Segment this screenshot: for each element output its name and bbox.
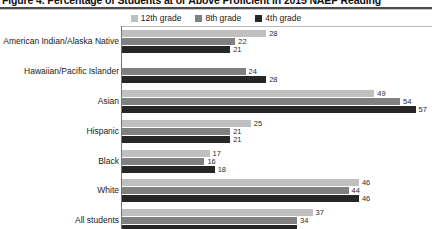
bar-value-label: 21 [233, 45, 241, 54]
bar-group-bars: 282221 [122, 30, 432, 54]
bar[interactable] [122, 98, 400, 105]
figure-title-container: Figure 4. Percentage of Students at or A… [0, 0, 432, 7]
bar-row: 18 [122, 166, 432, 173]
bar-group-bars: 3734 [122, 209, 432, 229]
title-divider-thin [0, 9, 432, 10]
chart-legend: 12th grade8th grade4th grade [0, 12, 432, 24]
bar-row: 16 [122, 158, 432, 165]
bar-row: 34 [122, 217, 432, 224]
chart-plot-area: American Indian/Alaska Native282221Hawai… [0, 26, 432, 229]
bar-row: 57 [122, 106, 432, 113]
category-label: All students [3, 216, 119, 225]
legend-swatch-8th-grade [195, 15, 202, 22]
bar-value-label: 21 [233, 135, 241, 144]
bar[interactable] [122, 217, 297, 224]
bar-value-label: 28 [269, 75, 277, 84]
bar-row: 25 [122, 120, 432, 127]
bar-row: 22 [122, 38, 432, 45]
bar-value-label: 28 [269, 29, 277, 38]
bar-row: 28 [122, 76, 432, 83]
legend-swatch-12th-grade [131, 15, 138, 22]
bar-value-label: 18 [218, 165, 226, 174]
bar-row: 17 [122, 150, 432, 157]
legend-item[interactable]: 12th grade [131, 14, 182, 23]
bar[interactable] [122, 209, 313, 216]
bar-group-bars: 252121 [122, 120, 432, 144]
legend-item[interactable]: 8th grade [195, 14, 241, 23]
bar[interactable] [122, 166, 215, 173]
bar-row: 44 [122, 187, 432, 194]
bar-row: 21 [122, 128, 432, 135]
bar-group-bars: 2428 [122, 60, 432, 84]
bar-row: 28 [122, 30, 432, 37]
bar[interactable] [122, 195, 359, 202]
bar[interactable] [122, 76, 266, 83]
bar-value-label: 16 [207, 157, 215, 166]
bar-row [122, 225, 432, 229]
page-title: Figure 4. Percentage of Students at or A… [0, 0, 432, 6]
bar-row: 21 [122, 46, 432, 53]
bar[interactable] [122, 30, 266, 37]
bar[interactable] [122, 38, 235, 45]
bar-row: 24 [122, 68, 432, 75]
bar-row: 46 [122, 195, 432, 202]
bar[interactable] [122, 90, 374, 97]
legend-item-label: 12th grade [141, 14, 182, 23]
bar-group-bars: 464446 [122, 179, 432, 203]
category-label: White [3, 186, 119, 195]
bar-group-bars: 495457 [122, 90, 432, 114]
bar[interactable] [122, 46, 230, 53]
bar-value-label: 54 [403, 97, 411, 106]
bar-row: 21 [122, 136, 432, 143]
category-label: Hispanic [3, 127, 119, 136]
bar[interactable] [122, 136, 230, 143]
bar-value-label: 44 [352, 186, 360, 195]
legend-item[interactable]: 4th grade [255, 14, 301, 23]
legend-item-label: 4th grade [265, 14, 301, 23]
plot-top-rule [121, 26, 432, 27]
bar-value-label: 46 [362, 178, 370, 187]
bar[interactable] [122, 106, 416, 113]
bar-row: 37 [122, 209, 432, 216]
bar[interactable] [122, 128, 230, 135]
bar[interactable] [122, 187, 349, 194]
bar-value-label: 34 [300, 216, 308, 225]
category-label: Black [3, 157, 119, 166]
bar-value-label: 49 [377, 89, 385, 98]
bar[interactable] [122, 120, 251, 127]
bar-row [122, 60, 432, 67]
category-label: Hawaiian/Pacific Islander [3, 67, 119, 76]
bar-value-label: 25 [254, 119, 262, 128]
bar[interactable] [122, 225, 297, 229]
bar-value-label: 57 [419, 105, 427, 114]
bar-row: 49 [122, 90, 432, 97]
bar-value-label: 37 [316, 208, 324, 217]
bar[interactable] [122, 158, 204, 165]
bar[interactable] [122, 179, 359, 186]
legend-swatch-4th-grade [255, 15, 262, 22]
bar-row: 46 [122, 179, 432, 186]
bar-value-label: 24 [249, 67, 257, 76]
category-label: Asian [3, 97, 119, 106]
bar-row: 54 [122, 98, 432, 105]
bar[interactable] [122, 150, 210, 157]
legend-item-label: 8th grade [205, 14, 241, 23]
bar[interactable] [122, 68, 246, 75]
category-label: American Indian/Alaska Native [3, 37, 119, 46]
bar-group-bars: 171618 [122, 150, 432, 174]
bar-value-label: 46 [362, 194, 370, 203]
